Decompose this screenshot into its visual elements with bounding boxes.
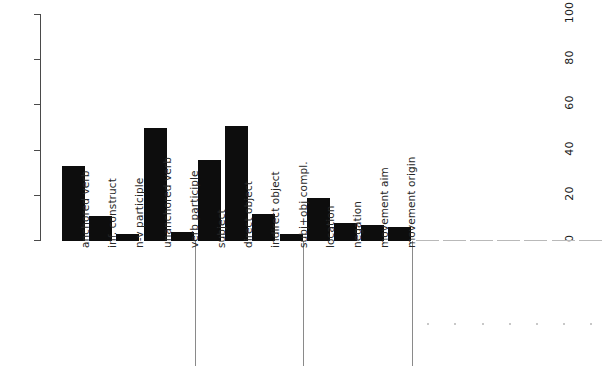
- x-tick-label: inf. construct: [106, 178, 118, 248]
- y-tick-mark: [34, 59, 40, 60]
- empty-category-tick: [563, 323, 565, 325]
- group-separator: [303, 241, 304, 366]
- x-tick-label: movement origin: [405, 156, 417, 248]
- x-tick-label: location: [324, 206, 336, 248]
- x-tick-label: anchored verb: [79, 171, 91, 248]
- y-tick-mark: [34, 104, 40, 105]
- empty-category-tick: [454, 323, 456, 325]
- x-tick-label: unanchored verb: [161, 157, 173, 248]
- bars-layer: [41, 10, 582, 241]
- x-tick-label: direct object: [242, 181, 254, 248]
- y-tick-mark: [34, 14, 40, 15]
- y-tick-mark: [34, 150, 40, 151]
- x-tick-label: movement aim: [378, 167, 390, 248]
- y-tick-mark: [34, 195, 40, 196]
- empty-category-tick: [427, 323, 429, 325]
- baseline-segment: [579, 240, 602, 241]
- x-tick-label: indirect object: [269, 171, 281, 248]
- group-separator: [412, 241, 413, 366]
- x-tick-label: negation: [351, 201, 363, 248]
- empty-category-tick: [482, 323, 484, 325]
- empty-category-tick: [509, 323, 511, 325]
- group-separator: [195, 241, 196, 366]
- empty-category-tick: [590, 323, 592, 325]
- empty-category-tick: [536, 323, 538, 325]
- x-tick-label: verb participle: [188, 170, 200, 248]
- y-tick-mark: [34, 240, 40, 241]
- x-tick-label: n-v participle: [133, 178, 145, 248]
- x-tick-label: subj+obj compl.: [297, 161, 309, 248]
- x-tick-label: subject: [215, 209, 227, 248]
